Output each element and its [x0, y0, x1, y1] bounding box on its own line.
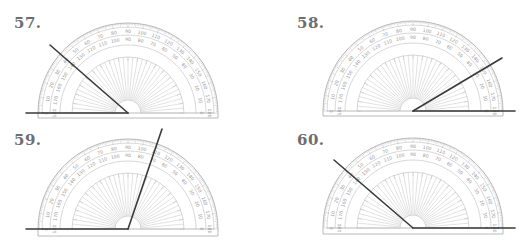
svg-text:90: 90: [410, 27, 416, 32]
svg-text:50: 50: [72, 163, 80, 171]
svg-text:170: 170: [490, 209, 496, 219]
svg-text:40: 40: [180, 178, 188, 186]
svg-text:150: 150: [345, 69, 354, 79]
svg-text:150: 150: [345, 186, 354, 196]
svg-text:40: 40: [347, 55, 355, 63]
svg-text:170: 170: [490, 92, 496, 102]
svg-text:80: 80: [137, 154, 144, 160]
protractor-60: 0102030405060708090100110120130140150160…: [323, 138, 515, 234]
protractor-57: 0102030405060708090100110120130140150160…: [26, 23, 218, 118]
svg-text:100: 100: [396, 36, 406, 42]
angle-ray-2: [128, 129, 162, 229]
svg-text:40: 40: [465, 177, 473, 185]
svg-text:10: 10: [482, 212, 488, 219]
svg-text:100: 100: [111, 38, 121, 44]
svg-text:170: 170: [338, 93, 344, 103]
protractor-58: 0102030405060708090100110120130140150160…: [323, 21, 515, 116]
svg-text:70: 70: [434, 156, 441, 163]
protractor-diagrams: 0102030405060708090100110120130140150160…: [0, 0, 532, 252]
svg-text:0: 0: [329, 226, 334, 229]
svg-text:60: 60: [84, 155, 92, 162]
svg-text:40: 40: [180, 62, 188, 70]
svg-text:0: 0: [199, 112, 204, 115]
svg-text:120: 120: [449, 36, 459, 45]
svg-text:60: 60: [369, 37, 377, 44]
svg-text:40: 40: [62, 173, 70, 181]
svg-text:50: 50: [72, 47, 80, 55]
svg-text:30: 30: [54, 185, 61, 193]
svg-text:110: 110: [98, 40, 108, 48]
svg-text:60: 60: [84, 39, 92, 46]
svg-text:90: 90: [410, 152, 416, 157]
svg-text:120: 120: [86, 161, 96, 170]
svg-text:90: 90: [125, 37, 131, 42]
svg-text:20: 20: [193, 84, 200, 91]
svg-text:150: 150: [60, 71, 69, 81]
svg-text:110: 110: [436, 31, 446, 39]
svg-text:120: 120: [86, 45, 96, 54]
svg-text:30: 30: [339, 184, 346, 192]
svg-text:120: 120: [164, 38, 174, 47]
svg-text:170: 170: [205, 210, 211, 220]
svg-text:50: 50: [357, 162, 365, 170]
svg-text:60: 60: [446, 161, 454, 168]
svg-text:90: 90: [125, 29, 131, 34]
svg-text:50: 50: [456, 51, 464, 59]
svg-text:100: 100: [137, 30, 147, 36]
svg-text:80: 80: [422, 36, 429, 42]
svg-text:60: 60: [446, 44, 454, 51]
svg-text:30: 30: [473, 188, 480, 196]
svg-text:170: 170: [53, 211, 59, 221]
svg-text:70: 70: [434, 39, 441, 46]
svg-text:150: 150: [194, 67, 203, 77]
svg-text:150: 150: [479, 182, 488, 192]
svg-text:40: 40: [465, 60, 473, 68]
svg-text:10: 10: [45, 212, 51, 219]
svg-text:120: 120: [371, 43, 381, 52]
svg-text:90: 90: [410, 35, 416, 40]
svg-text:180: 180: [207, 225, 212, 234]
svg-text:180: 180: [337, 107, 342, 116]
svg-text:160: 160: [55, 199, 63, 209]
svg-text:60: 60: [369, 154, 377, 161]
svg-text:170: 170: [338, 210, 344, 220]
svg-text:10: 10: [45, 96, 51, 103]
svg-text:120: 120: [164, 154, 174, 163]
svg-text:60: 60: [161, 162, 169, 169]
svg-text:160: 160: [200, 196, 208, 206]
svg-text:110: 110: [383, 38, 393, 46]
svg-text:110: 110: [98, 156, 108, 164]
svg-text:0: 0: [199, 228, 204, 231]
svg-text:10: 10: [197, 213, 203, 220]
svg-text:80: 80: [111, 30, 118, 36]
protractor-59: 0102030405060708090100110120130140150160…: [26, 129, 218, 236]
svg-text:50: 50: [357, 45, 365, 53]
svg-text:100: 100: [111, 154, 121, 160]
svg-text:90: 90: [125, 153, 131, 158]
svg-text:110: 110: [383, 155, 393, 163]
svg-text:50: 50: [171, 169, 179, 177]
svg-text:80: 80: [422, 153, 429, 159]
svg-text:150: 150: [60, 187, 69, 197]
svg-text:80: 80: [137, 38, 144, 44]
svg-text:20: 20: [193, 200, 200, 207]
svg-text:170: 170: [205, 94, 211, 104]
svg-text:110: 110: [436, 148, 446, 156]
svg-text:110: 110: [151, 33, 161, 41]
svg-text:10: 10: [197, 97, 203, 104]
svg-text:100: 100: [396, 153, 406, 159]
svg-text:160: 160: [55, 83, 63, 93]
svg-text:30: 30: [339, 67, 346, 75]
svg-text:90: 90: [410, 144, 416, 149]
svg-text:10: 10: [330, 94, 336, 101]
svg-text:70: 70: [149, 41, 156, 48]
svg-text:60: 60: [161, 46, 169, 53]
svg-text:100: 100: [422, 28, 432, 34]
svg-text:0: 0: [329, 109, 334, 112]
svg-text:20: 20: [478, 82, 485, 89]
svg-text:120: 120: [449, 153, 459, 162]
svg-text:170: 170: [53, 95, 59, 105]
svg-text:90: 90: [125, 145, 131, 150]
svg-text:30: 30: [54, 69, 61, 77]
svg-text:20: 20: [478, 199, 485, 206]
